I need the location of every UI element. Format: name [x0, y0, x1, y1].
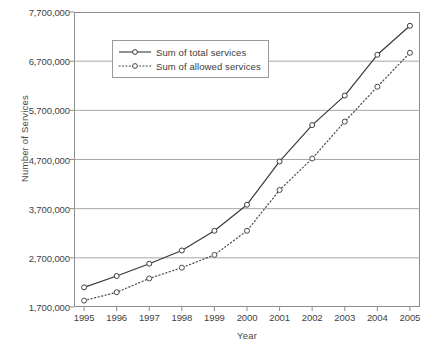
data-point-marker	[277, 187, 282, 192]
data-point-marker	[212, 228, 217, 233]
data-point-marker	[277, 159, 282, 164]
legend: Sum of total services Sum of allowed ser…	[112, 40, 269, 78]
legend-item-allowed-services: Sum of allowed services	[118, 59, 261, 73]
data-point-marker	[114, 274, 119, 279]
line-chart: Number of Services 1,700,0002,700,0003,7…	[0, 0, 429, 350]
x-axis-title: Year	[74, 330, 420, 341]
data-point-marker	[375, 84, 380, 89]
data-point-marker	[147, 276, 152, 281]
data-point-marker	[147, 261, 152, 266]
data-point-marker	[310, 123, 315, 128]
legend-item-total-services: Sum of total services	[118, 45, 261, 59]
data-point-marker	[245, 228, 250, 233]
legend-label-total-services: Sum of total services	[156, 47, 246, 58]
data-point-marker	[407, 50, 412, 55]
legend-swatch-solid-line-icon	[118, 46, 152, 58]
legend-label-allowed-services: Sum of allowed services	[156, 61, 261, 72]
data-point-marker	[212, 252, 217, 257]
x-axis-tick-label: 2005	[388, 312, 429, 323]
data-point-marker	[179, 248, 184, 253]
data-point-marker	[114, 290, 119, 295]
data-point-marker	[310, 156, 315, 161]
data-point-marker	[82, 298, 87, 303]
data-point-marker	[245, 202, 250, 207]
data-point-marker	[342, 119, 347, 124]
data-point-marker	[179, 265, 184, 270]
series-line-allowed-services	[84, 53, 410, 301]
data-point-marker	[375, 52, 380, 57]
data-point-marker	[82, 285, 87, 290]
legend-swatch-dotted-line-icon	[118, 60, 152, 72]
data-point-marker	[342, 93, 347, 98]
data-point-marker	[407, 23, 412, 28]
